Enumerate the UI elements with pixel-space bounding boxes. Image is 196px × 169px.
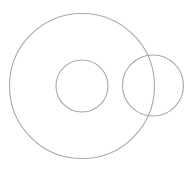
diagram-canvas [0,0,196,169]
large-outer-circle [10,14,155,159]
inner-circle [56,60,108,112]
right-overlapping-circle [123,55,184,116]
